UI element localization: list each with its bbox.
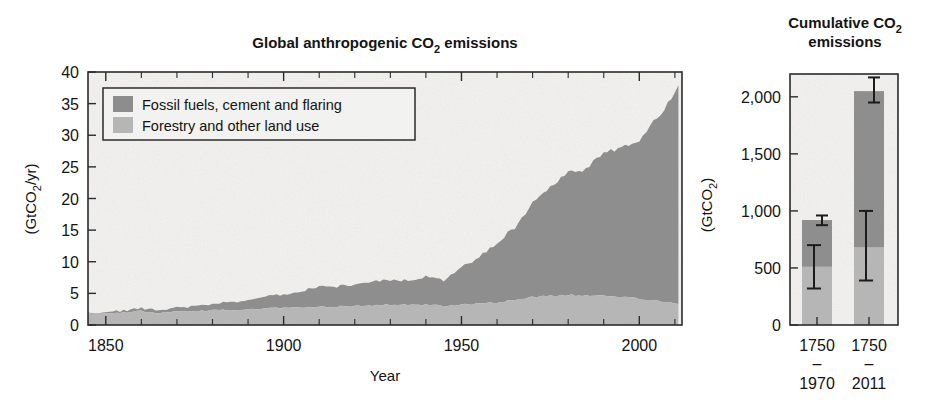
left-x-tick-label: 1950 bbox=[444, 337, 480, 354]
left-y-tick-label: 5 bbox=[70, 285, 79, 302]
legend-label-fossil: Fossil fuels, cement and flaring bbox=[142, 97, 342, 113]
right-y-tick-label: 2,000 bbox=[741, 89, 781, 106]
right-plot-bars bbox=[790, 74, 898, 325]
left-x-axis-label: Year bbox=[370, 367, 400, 384]
right-x-tick-label-end: 1970 bbox=[799, 375, 835, 392]
legend-swatch-fossil bbox=[113, 96, 133, 112]
right-y-tick-label: 1,000 bbox=[741, 203, 781, 220]
right-y-tick-label: 500 bbox=[754, 260, 781, 277]
left-y-tick-label: 30 bbox=[61, 127, 79, 144]
left-x-tick-label: 1850 bbox=[88, 337, 124, 354]
right-panel-title-line2: emissions bbox=[808, 33, 881, 50]
left-y-tick-label: 35 bbox=[61, 96, 79, 113]
left-y-tick-label: 40 bbox=[61, 64, 79, 81]
legend-swatch-forestry bbox=[113, 117, 133, 133]
figure-root: Global anthropogenic CO2 emissions 05101… bbox=[0, 0, 943, 402]
right-x-tick-label-end: 2011 bbox=[852, 375, 887, 392]
right-x-tick-label-start: 1750 bbox=[851, 337, 887, 354]
right-x-tick-label-dash: – bbox=[813, 355, 822, 372]
left-x-tick-label: 1900 bbox=[266, 337, 302, 354]
left-y-tick-label: 10 bbox=[61, 254, 79, 271]
right-y-tick-label: 0 bbox=[772, 317, 781, 334]
left-y-tick-label: 25 bbox=[61, 159, 79, 176]
legend-label-forestry: Forestry and other land use bbox=[142, 118, 319, 134]
left-y-tick-label: 0 bbox=[70, 317, 79, 334]
left-y-tick-label: 15 bbox=[61, 222, 79, 239]
right-y-tick-label: 1,500 bbox=[741, 146, 781, 163]
left-x-tick-label: 2000 bbox=[622, 337, 658, 354]
right-x-tick-label-dash: – bbox=[865, 355, 874, 372]
left-y-tick-label: 20 bbox=[61, 191, 79, 208]
right-bars-grain bbox=[790, 74, 898, 325]
right-x-tick-label-start: 1750 bbox=[799, 337, 835, 354]
legend-item-forestry: Forestry and other land use bbox=[113, 117, 319, 134]
legend-item-fossil: Fossil fuels, cement and flaring bbox=[113, 96, 342, 113]
legend: Fossil fuels, cement and flaring Forestr… bbox=[103, 88, 415, 140]
